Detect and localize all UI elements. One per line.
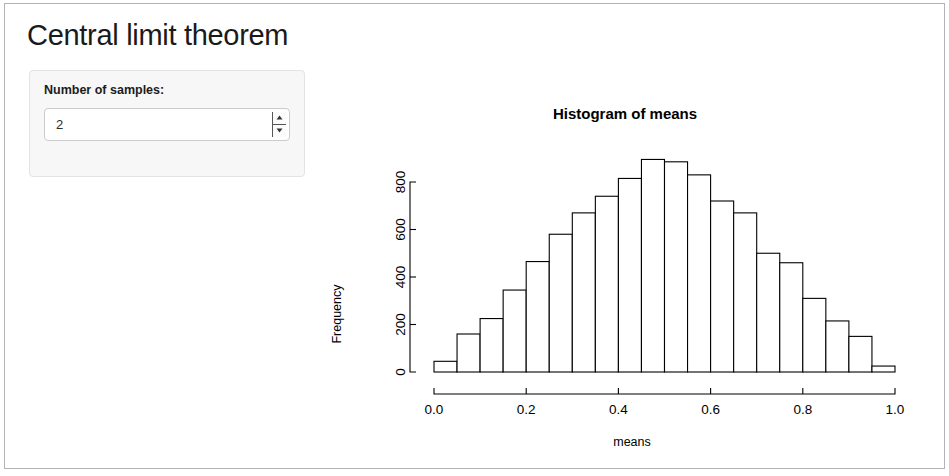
histogram-bar: [803, 298, 826, 372]
x-axis-label: means: [613, 435, 651, 449]
histogram-bar: [641, 159, 664, 372]
histogram-bar: [872, 366, 895, 372]
page-title: Central limit theorem: [27, 18, 288, 52]
app-window: Central limit theorem Number of samples:: [4, 3, 945, 469]
histogram-bar: [711, 201, 734, 372]
x-axis-tick-label: 0.8: [793, 402, 812, 417]
histogram-bar: [665, 162, 688, 372]
number-of-samples-input[interactable]: [44, 108, 290, 141]
histogram-bar: [849, 336, 872, 372]
histogram-bar: [826, 321, 849, 372]
x-axis-tick-label: 0.2: [517, 402, 536, 417]
x-axis-tick-label: 0.0: [425, 402, 444, 417]
y-axis-tick-label: 400: [393, 266, 408, 289]
histogram-bar: [734, 213, 757, 372]
histogram-bar: [780, 263, 803, 372]
histogram-bar: [526, 262, 549, 372]
y-axis: 0200400600800: [393, 171, 416, 376]
histogram-plot: Histogram of means 0200400600800 0.00.20…: [315, 64, 935, 459]
histogram-bar: [618, 178, 641, 372]
histogram-bar: [434, 361, 457, 372]
histogram-bar: [549, 234, 572, 372]
histogram-bar: [757, 253, 780, 372]
sidebar-panel: Number of samples:: [29, 70, 305, 177]
histogram-bars: [434, 159, 895, 372]
histogram-bar: [595, 196, 618, 372]
stepper-increment-button[interactable]: [273, 112, 286, 125]
y-axis-tick-label: 800: [393, 171, 408, 194]
histogram-bar: [503, 290, 526, 372]
number-stepper[interactable]: [272, 112, 286, 137]
y-axis-tick-label: 200: [393, 313, 408, 336]
histogram-bar: [688, 175, 711, 372]
x-axis-line: [434, 388, 895, 394]
x-axis-tick-label: 0.4: [609, 402, 628, 417]
x-axis-tick-label: 1.0: [886, 402, 905, 417]
caret-up-icon: [276, 115, 283, 120]
y-axis-tick-label: 0: [393, 368, 408, 376]
histogram-bar: [572, 213, 595, 372]
number-of-samples-label: Number of samples:: [44, 83, 164, 97]
histogram-bar: [457, 334, 480, 372]
stepper-decrement-button[interactable]: [273, 125, 286, 138]
x-axis: 0.00.20.40.60.81.0: [425, 388, 905, 417]
y-axis-label: Frequency: [330, 284, 344, 344]
number-of-samples-field-wrap: [44, 108, 290, 141]
histogram-bar: [480, 319, 503, 372]
caret-down-icon: [276, 128, 283, 133]
x-axis-tick-label: 0.6: [701, 402, 720, 417]
histogram-svg: Histogram of means 0200400600800 0.00.20…: [315, 64, 935, 459]
y-axis-tick-label: 600: [393, 218, 408, 241]
chart-title: Histogram of means: [553, 105, 697, 122]
